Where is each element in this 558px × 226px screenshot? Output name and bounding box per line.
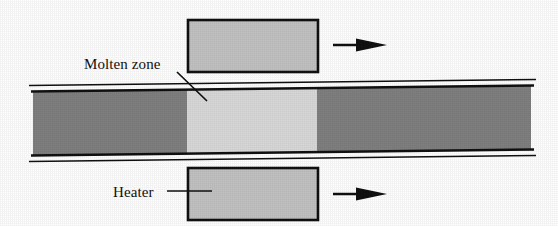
heater-block-bottom <box>188 168 318 220</box>
label-heater: Heater <box>113 184 154 201</box>
tube-wall-bottom-outer <box>29 156 536 162</box>
label-molten-zone: Molten zone <box>84 56 161 73</box>
travel-arrow-top-icon <box>333 39 387 52</box>
heater-block-top <box>188 20 318 72</box>
diagram-canvas <box>0 0 558 226</box>
travel-arrow-bottom-icon <box>333 188 387 201</box>
zone-refining-diagram: Molten zone Heater <box>0 0 558 226</box>
molten-zone-band <box>187 80 317 160</box>
tube-wall-top-outer <box>29 80 536 86</box>
ingot-group <box>29 80 536 162</box>
